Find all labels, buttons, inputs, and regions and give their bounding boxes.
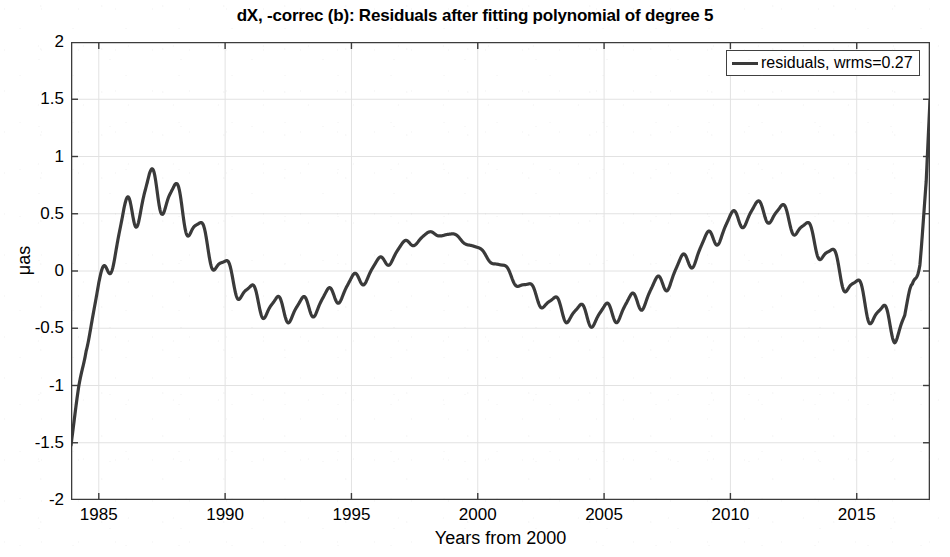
y-tick-label: -1 xyxy=(49,376,64,396)
y-tick-label: -0.5 xyxy=(35,318,64,338)
residuals-line xyxy=(71,100,930,445)
y-tick-label: -2 xyxy=(49,490,64,510)
legend-swatch-residuals xyxy=(732,62,758,65)
y-tick-label: 0.5 xyxy=(40,204,64,224)
x-axis-label: Years from 2000 xyxy=(71,528,930,549)
x-tick-label: 2015 xyxy=(838,505,876,525)
x-tick-label: 2000 xyxy=(459,505,497,525)
y-tick-label: 1 xyxy=(55,147,64,167)
plot-area xyxy=(71,42,930,500)
legend-label-residuals: residuals, wrms=0.27 xyxy=(761,55,913,71)
gridlines-horizontal xyxy=(71,99,930,443)
x-tick-label: 2005 xyxy=(585,505,623,525)
y-tick-label: 0 xyxy=(55,261,64,281)
y-tick-label: -1.5 xyxy=(35,433,64,453)
x-tick-label: 2010 xyxy=(711,505,749,525)
y-tick-label: 2 xyxy=(55,32,64,52)
chart-title: dX, -correc (b): Residuals after fitting… xyxy=(0,6,950,26)
figure: dX, -correc (b): Residuals after fitting… xyxy=(0,0,950,557)
legend: residuals, wrms=0.27 xyxy=(726,50,920,76)
x-tick-label: 1990 xyxy=(206,505,244,525)
x-axis-tick-labels: 1985199019952000200520102015 xyxy=(71,505,930,529)
y-tick-label: 1.5 xyxy=(40,89,64,109)
x-tick-label: 1985 xyxy=(80,505,118,525)
y-axis-label: μas xyxy=(14,221,35,301)
x-tick-label: 1995 xyxy=(333,505,371,525)
plot-svg xyxy=(71,42,930,500)
